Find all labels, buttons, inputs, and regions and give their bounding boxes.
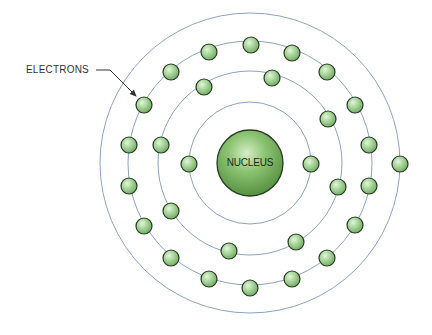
electrons-annotation-arrow [96,70,136,96]
nucleus-label: NUCLEUS [215,157,285,168]
electron-shell-2 [330,179,346,195]
electron-shell-3 [121,178,137,194]
electron-shell-2 [264,70,280,86]
electron-shell-3 [347,217,363,233]
electron-shell-3 [121,137,137,153]
electron-shell-3 [163,250,179,266]
electron-shell-2 [196,79,212,95]
electron-shell-3 [136,218,152,234]
electron-shell-2 [288,234,304,250]
electron-shell-3 [136,97,152,113]
atom-diagram: ELECTRONS NUCLEUS [0,0,432,335]
electron-shell-3 [319,250,335,266]
electron-shell-2 [163,203,179,219]
electron-shell-3 [361,137,377,153]
electron-shell-1 [303,156,319,172]
electron-shell-3 [361,178,377,194]
electron-shell-3 [201,44,217,60]
arrow-line [96,70,136,96]
electron-shell-2 [153,137,169,153]
electron-shell-4 [392,156,408,172]
electron-shell-3 [243,37,259,53]
electron-shell-3 [319,64,335,80]
electron-shell-3 [201,271,217,287]
electron-shell-3 [163,64,179,80]
electron-shell-1 [181,156,197,172]
electrons-label: ELECTRONS [26,64,89,75]
electron-shell-3 [347,97,363,113]
electron-shell-3 [242,280,258,296]
electron-shell-2 [221,243,237,259]
electron-shell-2 [320,111,336,127]
electron-shell-3 [284,271,300,287]
electron-shell-3 [284,45,300,61]
